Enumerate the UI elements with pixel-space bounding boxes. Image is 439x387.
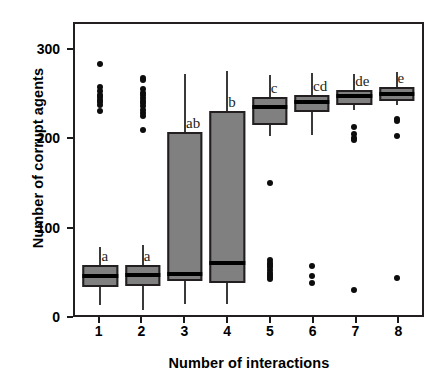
x-tick-label: 8 [383, 323, 413, 339]
outlier-point [140, 127, 146, 133]
x-tick-label: 7 [341, 323, 371, 339]
outlier-point [309, 280, 315, 286]
x-tick-label: 6 [298, 323, 328, 339]
whisker-lower [396, 101, 398, 105]
outlier-point [97, 108, 103, 114]
significance-letter: cd [313, 78, 327, 95]
outlier-point [140, 113, 146, 119]
outlier-point [97, 61, 103, 67]
y-tick-label: 300 [16, 41, 60, 57]
median-line [294, 100, 329, 104]
significance-letter: b [228, 94, 236, 111]
outlier-point [309, 273, 315, 279]
x-tick-mark [269, 317, 271, 323]
x-tick-mark [312, 317, 314, 323]
whisker-lower [184, 281, 186, 304]
significance-letter: c [271, 80, 278, 97]
plot-area: aaabbccddee [73, 22, 424, 317]
x-axis-label: Number of interactions [73, 355, 425, 371]
outlier-point [267, 180, 273, 186]
outlier-point [267, 276, 273, 282]
significance-letter: a [144, 248, 151, 265]
x-tick-label: 1 [84, 323, 114, 339]
significance-letter: ab [186, 115, 200, 132]
x-tick-label: 5 [255, 323, 285, 339]
x-tick-mark [226, 317, 228, 323]
x-tick-mark [98, 317, 100, 323]
outlier-point [309, 263, 315, 269]
significance-letter: e [398, 70, 405, 87]
y-tick-label: 100 [16, 220, 60, 236]
median-line [83, 274, 118, 278]
outlier-point [351, 124, 357, 130]
x-tick-label: 2 [126, 323, 156, 339]
median-line [125, 273, 160, 277]
x-tick-mark [355, 317, 357, 323]
boxplot-figure: Number of corrupt agents Number of inter… [0, 0, 439, 387]
box-rect [210, 111, 245, 283]
whisker-lower [269, 125, 271, 136]
y-tick-label: 200 [16, 130, 60, 146]
y-tick-label: 0 [16, 309, 60, 325]
box-rect [252, 97, 287, 124]
outlier-point [394, 118, 400, 124]
whisker-lower [353, 105, 355, 109]
outlier-point [394, 133, 400, 139]
median-line [252, 105, 287, 109]
x-tick-label: 4 [212, 323, 242, 339]
x-tick-mark [183, 317, 185, 323]
outlier-point [97, 102, 103, 108]
outlier-point [351, 137, 357, 143]
median-line [167, 272, 202, 276]
whisker-lower [311, 112, 313, 135]
x-tick-mark [397, 317, 399, 323]
plot-inner: aaabbccddee [75, 24, 422, 315]
x-tick-mark [140, 317, 142, 323]
median-line [210, 261, 245, 265]
whisker-lower [142, 286, 144, 310]
outlier-point [351, 287, 357, 293]
x-tick-label: 3 [169, 323, 199, 339]
y-axis-label: Number of corrupt agents [30, 28, 46, 288]
significance-letter: a [101, 248, 108, 265]
whisker-lower [226, 283, 228, 303]
median-line [337, 94, 372, 98]
significance-letter: de [355, 73, 369, 90]
outlier-point [394, 275, 400, 281]
outlier-point [140, 77, 146, 83]
whisker-lower [99, 287, 101, 306]
median-line [379, 92, 414, 96]
box-rect [167, 132, 202, 282]
